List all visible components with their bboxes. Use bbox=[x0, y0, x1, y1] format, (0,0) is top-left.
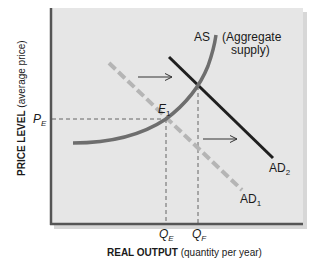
y-axis-label: PRICE LEVEL (average price) bbox=[16, 40, 27, 176]
qf-tick-label: QF bbox=[192, 227, 207, 243]
qe-tick-label: QE bbox=[159, 227, 174, 243]
as-desc-line2: supply) bbox=[231, 43, 270, 57]
x-axis-label: REAL OUTPUT (quantity per year) bbox=[107, 247, 262, 258]
as-label: AS bbox=[194, 30, 210, 44]
as-desc-line1: (Aggregate bbox=[222, 30, 282, 44]
pe-tick-label: PE bbox=[33, 112, 47, 128]
aggregate-supply-demand-chart: AS (Aggregate supply) E1 AD2 AD1 PE QE Q… bbox=[0, 0, 328, 265]
